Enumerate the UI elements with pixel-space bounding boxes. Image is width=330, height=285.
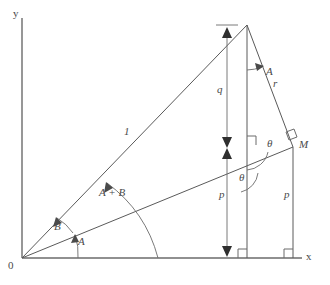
label-angle-b-origin: B bbox=[54, 221, 61, 232]
label-angle-a-plus-b: A + B bbox=[99, 187, 125, 198]
label-angle-a-apex: A bbox=[266, 66, 273, 77]
label-segment-p-left: p bbox=[219, 189, 225, 200]
label-angle-theta-lower: θ bbox=[239, 172, 244, 183]
q-arrow-up-icon bbox=[222, 27, 232, 38]
right-angle-at-m-icon bbox=[286, 129, 297, 140]
label-point-m: M bbox=[299, 139, 308, 150]
label-segment-q: q bbox=[217, 84, 223, 95]
right-angle-foot-apex-icon bbox=[238, 249, 247, 258]
label-angle-a-origin: A bbox=[78, 236, 85, 247]
theta-arcs bbox=[241, 152, 268, 192]
q-arrow-down-icon bbox=[222, 137, 232, 148]
construction-lines bbox=[22, 25, 293, 258]
geometry-diagram: y x 0 1 r q p p M A B A + B A θ θ bbox=[0, 0, 330, 285]
segment-side-r bbox=[247, 25, 293, 147]
axes-group bbox=[22, 18, 302, 258]
diagram-canvas bbox=[0, 0, 330, 285]
label-angle-theta-upper: θ bbox=[267, 138, 272, 149]
arc-theta-upper bbox=[247, 152, 268, 170]
y-axis-label: y bbox=[13, 8, 19, 19]
right-angle-foot-m-icon bbox=[284, 249, 293, 258]
right-angle-apex-vertical-icon bbox=[247, 136, 256, 145]
x-axis-label: x bbox=[306, 251, 312, 262]
label-unit-side: 1 bbox=[124, 126, 130, 137]
p-arrow-up-icon bbox=[222, 148, 232, 159]
label-side-r: r bbox=[273, 78, 277, 89]
origin-label: 0 bbox=[8, 260, 14, 271]
p-arrow-down-icon bbox=[222, 246, 232, 257]
label-segment-p-right: p bbox=[284, 189, 290, 200]
segment-ray-to-m bbox=[22, 147, 293, 258]
